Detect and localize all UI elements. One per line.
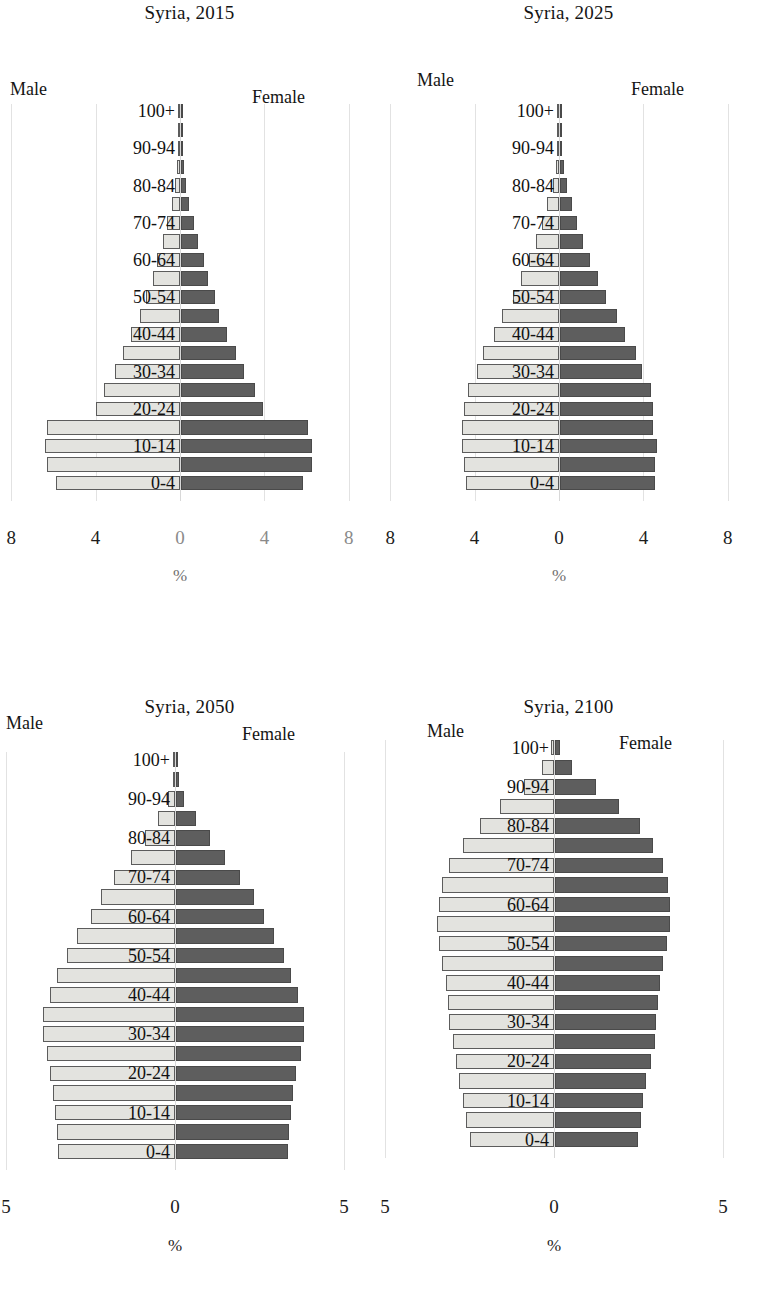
bar-female bbox=[555, 779, 596, 794]
male-legend-label: Male bbox=[417, 70, 454, 91]
x-axis-tick-label: 5 bbox=[718, 1196, 728, 1218]
age-group-label: 70-74 bbox=[128, 868, 170, 886]
bar-female bbox=[560, 346, 636, 360]
bar-male bbox=[47, 457, 180, 471]
bar-female bbox=[555, 838, 653, 853]
bar-female bbox=[181, 216, 194, 230]
bar-female bbox=[176, 909, 264, 924]
bar-female bbox=[181, 104, 183, 118]
bar-male bbox=[483, 346, 559, 360]
bar-male bbox=[43, 1007, 175, 1022]
gridline bbox=[349, 104, 350, 501]
age-group-label: 50-54 bbox=[507, 935, 549, 953]
bar-female bbox=[181, 309, 219, 323]
bar-female bbox=[176, 752, 178, 767]
age-group-label: 50-54 bbox=[133, 288, 175, 306]
bar-female bbox=[181, 234, 198, 248]
age-group-label: 0-4 bbox=[525, 1131, 549, 1149]
bar-female bbox=[181, 420, 308, 434]
bar-female bbox=[176, 1144, 288, 1159]
axis-unit-label: % bbox=[547, 1236, 561, 1256]
bar-female bbox=[560, 178, 567, 192]
bar-female bbox=[181, 271, 208, 285]
bar-female bbox=[176, 870, 240, 885]
age-group-label: 90-94 bbox=[133, 139, 175, 157]
bar-male bbox=[502, 309, 559, 323]
bar-male bbox=[177, 160, 180, 174]
panel-syria-2015: Syria, 2015 Male Female 84048 % 0-410-14… bbox=[0, 0, 379, 640]
bar-male bbox=[140, 309, 180, 323]
bar-female bbox=[555, 1112, 641, 1127]
bar-female bbox=[560, 104, 562, 118]
age-group-label: 40-44 bbox=[512, 325, 554, 343]
gridline bbox=[728, 104, 729, 501]
x-axis-tick-label: 0 bbox=[175, 527, 185, 549]
bar-female bbox=[555, 975, 660, 990]
bar-female bbox=[560, 216, 577, 230]
axis-unit-label: % bbox=[173, 566, 187, 586]
axis-unit-label: % bbox=[552, 566, 566, 586]
bar-male bbox=[175, 178, 180, 192]
bar-male bbox=[500, 799, 554, 814]
bar-female bbox=[555, 760, 572, 775]
age-group-label: 100+ bbox=[133, 751, 170, 769]
bar-male bbox=[178, 104, 180, 118]
bar-female bbox=[555, 995, 658, 1010]
age-group-label: 20-24 bbox=[507, 1052, 549, 1070]
gridline bbox=[6, 752, 7, 1170]
age-group-label: 60-64 bbox=[507, 896, 549, 914]
female-legend-label: Female bbox=[242, 724, 295, 745]
panel-syria-2100: Syria, 2100 Male Female 505 % 0-410-1420… bbox=[379, 640, 758, 1276]
bar-female bbox=[181, 364, 244, 378]
age-group-label: 10-14 bbox=[512, 437, 554, 455]
pyramid-figure-grid: Syria, 2015 Male Female 84048 % 0-410-14… bbox=[0, 0, 758, 1296]
bar-male bbox=[101, 889, 175, 904]
x-axis-tick-label: 0 bbox=[170, 1196, 180, 1218]
male-legend-label: Male bbox=[6, 713, 43, 734]
bar-male bbox=[462, 420, 559, 434]
bar-female bbox=[176, 850, 225, 865]
bar-female bbox=[560, 197, 572, 211]
bar-male bbox=[547, 197, 559, 211]
age-group-label: 20-24 bbox=[133, 400, 175, 418]
age-group-label: 60-64 bbox=[512, 251, 554, 269]
bar-male bbox=[551, 740, 554, 755]
bar-female bbox=[560, 141, 562, 155]
age-group-label: 80-84 bbox=[128, 829, 170, 847]
bar-female bbox=[176, 1007, 304, 1022]
age-group-label: 90-94 bbox=[507, 778, 549, 796]
bar-female bbox=[176, 968, 291, 983]
bar-male bbox=[123, 346, 180, 360]
bar-male bbox=[556, 160, 559, 174]
bar-male bbox=[437, 916, 554, 931]
age-group-label: 60-64 bbox=[133, 251, 175, 269]
x-axis-tick-label: 4 bbox=[260, 527, 270, 549]
bar-male bbox=[442, 877, 554, 892]
bar-male bbox=[163, 234, 180, 248]
panel-syria-2050: Syria, 2050 Male Female 505 % 0-410-1420… bbox=[0, 640, 379, 1276]
bar-female bbox=[555, 877, 668, 892]
bar-female bbox=[176, 1124, 289, 1139]
bar-female bbox=[181, 290, 215, 304]
bar-male bbox=[557, 123, 559, 137]
age-group-label: 80-84 bbox=[512, 177, 554, 195]
age-group-label: 60-64 bbox=[128, 908, 170, 926]
age-group-label: 100+ bbox=[517, 102, 554, 120]
bar-male bbox=[77, 928, 175, 943]
plot-area bbox=[0, 752, 379, 1170]
bar-female bbox=[181, 402, 263, 416]
age-group-label: 40-44 bbox=[128, 986, 170, 1004]
age-group-label: 50-54 bbox=[128, 947, 170, 965]
plot-area bbox=[379, 740, 758, 1158]
gridline bbox=[11, 104, 12, 501]
bar-female bbox=[560, 476, 655, 490]
bar-female bbox=[181, 327, 227, 341]
bar-female bbox=[181, 439, 312, 453]
bar-female bbox=[560, 383, 651, 397]
bar-male bbox=[173, 772, 175, 787]
bar-female bbox=[555, 916, 670, 931]
x-axis-tick-label: 0 bbox=[549, 1196, 559, 1218]
male-legend-label: Male bbox=[427, 721, 464, 742]
age-group-label: 0-4 bbox=[151, 474, 175, 492]
bar-male bbox=[521, 271, 559, 285]
